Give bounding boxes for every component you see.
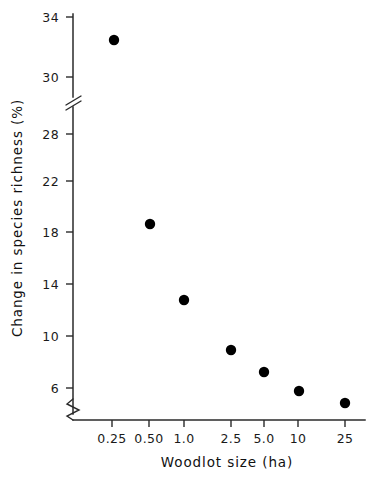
scatter-plot-figure: 34 30 28 22 18 14 10 6 0.25 0.50 1.0 2.5… — [0, 0, 371, 481]
y-tick-label-14: 14 — [42, 277, 59, 292]
y-tick-label-34: 34 — [42, 10, 59, 25]
chart-canvas: 34 30 28 22 18 14 10 6 0.25 0.50 1.0 2.5… — [0, 0, 371, 481]
x-tick-label-2-5: 2.5 — [220, 431, 241, 446]
data-point[interactable] — [179, 295, 189, 305]
data-point[interactable] — [294, 386, 304, 396]
x-tick-label-1-0: 1.0 — [173, 431, 194, 446]
data-point[interactable] — [145, 219, 155, 229]
y-tick-label-30: 30 — [42, 70, 59, 85]
x-tick-label-5-0: 5.0 — [253, 431, 274, 446]
y-axis: 34 30 28 22 18 14 10 6 — [42, 10, 81, 420]
y-tick-label-18: 18 — [42, 225, 59, 240]
x-axis: 0.25 0.50 1.0 2.5 5.0 10 25 — [73, 420, 365, 446]
y-tick-label-6: 6 — [51, 381, 59, 396]
y-axis-title: Change in species richness (%) — [9, 99, 25, 337]
data-series-change-in-species-richness — [109, 35, 350, 408]
data-point[interactable] — [259, 367, 269, 377]
y-tick-label-22: 22 — [42, 174, 59, 189]
x-tick-label-25: 25 — [337, 431, 354, 446]
data-point[interactable] — [340, 398, 350, 408]
x-tick-label-0-25: 0.25 — [97, 431, 126, 446]
y-tick-label-10: 10 — [42, 329, 59, 344]
x-tick-label-0-50: 0.50 — [134, 431, 163, 446]
x-tick-label-10: 10 — [290, 431, 307, 446]
data-point[interactable] — [226, 345, 236, 355]
data-point[interactable] — [109, 35, 119, 45]
x-axis-title: Woodlot size (ha) — [161, 454, 293, 470]
y-tick-label-28: 28 — [42, 127, 59, 142]
